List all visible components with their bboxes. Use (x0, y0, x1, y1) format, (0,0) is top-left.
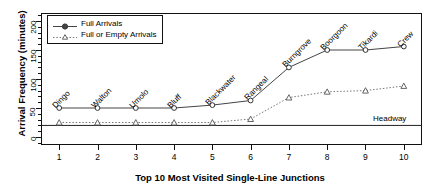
x-tick-label: 5 (200, 152, 224, 162)
data-point (56, 120, 62, 125)
y-tick-label: 100 (29, 79, 38, 92)
legend-item-full-arrivals: Full Arrivals (52, 18, 157, 29)
x-tick-label: 10 (392, 152, 416, 162)
data-point (401, 83, 407, 88)
x-tick-label: 1 (47, 152, 71, 162)
legend-label-full-arrivals: Full Arrivals (81, 19, 122, 28)
legend-key-open-triangle-icon (52, 29, 78, 40)
x-tick-label: 7 (277, 152, 301, 162)
x-tick-label: 9 (353, 152, 377, 162)
x-tick-label: 4 (162, 152, 186, 162)
x-tick-label: 3 (124, 152, 148, 162)
legend-item-full-or-empty-arrivals: Full or Empty Arrivals (52, 29, 157, 40)
legend-label-full-or-empty-arrivals: Full or Empty Arrivals (81, 30, 157, 39)
y-tick-label: 150 (29, 49, 38, 62)
x-axis: 12345678910 (41, 145, 422, 171)
chart-container: Arrival Frequency (minutes) Top 10 Most … (0, 0, 427, 194)
data-point (133, 120, 139, 125)
legend: Full Arrivals Full or Empty Arrivals (47, 15, 163, 44)
y-tick-label: 0 (29, 137, 38, 141)
x-tick-label: 2 (86, 152, 110, 162)
x-tick-label: 8 (315, 152, 339, 162)
y-axis: 050100150200 (0, 13, 41, 145)
x-axis-title: Top 10 Most Visited Single-Line Junction… (35, 172, 425, 183)
headway-label: Headway (373, 114, 406, 123)
legend-key-filled-circle-icon (52, 18, 78, 29)
y-tick-label: 200 (29, 20, 38, 33)
y-tick-label: 50 (29, 108, 38, 117)
data-point (286, 95, 292, 100)
x-tick-label: 6 (239, 152, 263, 162)
data-point (324, 89, 330, 94)
